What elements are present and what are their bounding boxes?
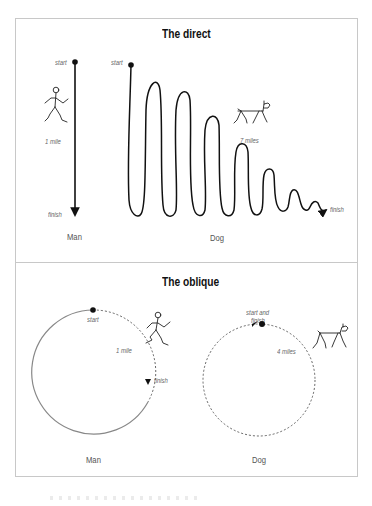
- bleed-through-artifact: [50, 496, 200, 500]
- dog-oblique-icon: [313, 324, 348, 348]
- start-dot-icon: [90, 307, 96, 313]
- running-man-icon: [45, 87, 68, 122]
- start-dot-icon: [259, 321, 265, 327]
- dog-oblique-path: [203, 321, 315, 436]
- man-oblique-path: [32, 307, 156, 434]
- diagram-artwork: [0, 0, 372, 506]
- dog-direct-icon: [234, 101, 270, 123]
- running-man-icon: [146, 312, 170, 345]
- man-direct-path: [72, 59, 78, 215]
- dog-direct-path: [128, 62, 326, 216]
- arrow-down-icon: [145, 379, 151, 385]
